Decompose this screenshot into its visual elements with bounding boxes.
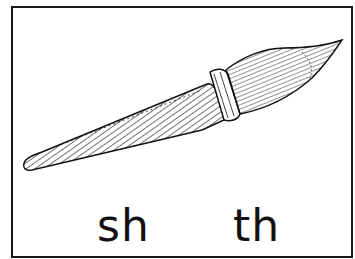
paintbrush-illustration <box>13 8 351 256</box>
choice-sh[interactable]: sh <box>97 201 150 251</box>
flashcard: sh th <box>11 6 353 258</box>
choice-th[interactable]: th <box>233 201 280 251</box>
